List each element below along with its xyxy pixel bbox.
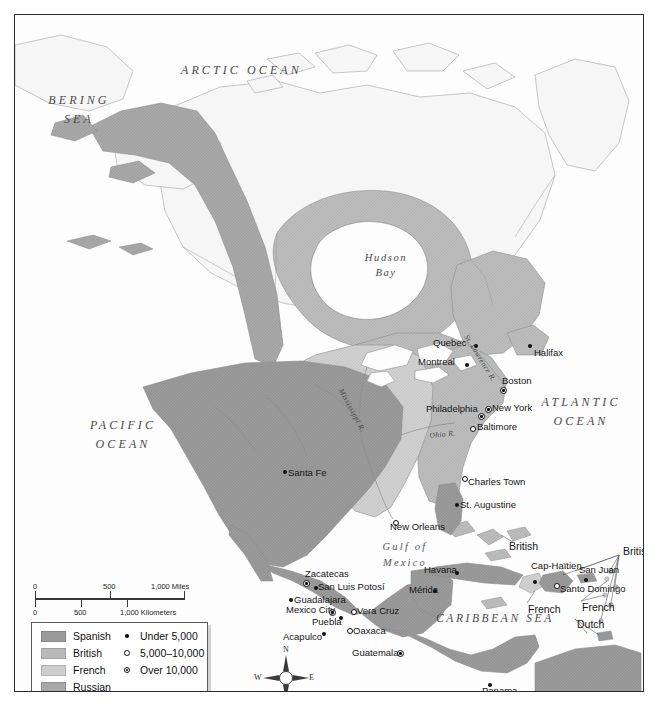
city-marker-mexico-city: [329, 609, 336, 616]
map-figure: ARCTIC OCEAN BERING SEA PACIFIC OCEAN AT…: [0, 0, 658, 706]
legend-swatch-british: [41, 648, 66, 659]
compass-rose: N S E W: [255, 647, 317, 692]
scale-tick-miles-500: [110, 591, 111, 599]
population-large-icon: [120, 667, 134, 674]
city-marker-new-york: [485, 406, 492, 413]
scale-tick-km-0: [35, 599, 36, 607]
legend-swatch-spanish: [41, 631, 66, 642]
city-marker-montreal: [465, 363, 469, 367]
city-marker-merida: [433, 589, 437, 593]
legend-item-french: French: [41, 662, 106, 678]
city-marker-oaxaca: [347, 628, 353, 634]
scale-tick-miles-1000: [184, 591, 185, 599]
scale-label-miles-500: 500: [103, 582, 116, 591]
map-frame: ARCTIC OCEAN BERING SEA PACIFIC OCEAN AT…: [14, 14, 644, 692]
legend-label-over-10000: Over 10,000: [140, 664, 198, 676]
legend-label-spanish: Spanish: [73, 630, 111, 642]
city-marker-santa-fe: [283, 470, 287, 474]
legend-swatch-russian: [41, 682, 66, 693]
city-marker-puebla: [339, 616, 343, 620]
population-medium-icon: [120, 650, 134, 656]
scale-label-miles-0: 0: [33, 582, 37, 591]
city-marker-vera-cruz: [351, 609, 357, 615]
city-marker-new-orleans: [393, 520, 399, 526]
legend-label-russian: Russian: [73, 681, 111, 692]
scale-tick-miles-0: [35, 591, 36, 599]
legend-item-over-10000: Over 10,000: [120, 662, 198, 678]
city-marker-santo-domingo: [554, 583, 560, 589]
legend-item-british: British: [41, 645, 102, 661]
city-marker-san-juan: [584, 578, 588, 582]
city-marker-acapulco: [322, 632, 326, 636]
legend-label-french: French: [73, 664, 106, 676]
city-marker-guatemala: [397, 650, 404, 657]
legend-label-british: British: [73, 647, 102, 659]
scale-bar: 0 500 1,000 Miles 0 500 1,000 Kilometers: [31, 581, 203, 619]
scale-label-km-500: 500: [74, 608, 87, 617]
legend-label-under-5000: Under 5,000: [140, 630, 198, 642]
city-marker-charles-town: [462, 476, 468, 482]
legend-label-5000-10000: 5,000–10,000: [140, 647, 204, 659]
map-legend: Spanish British French Russian Under 5,0…: [31, 622, 208, 692]
legend-item-russian: Russian: [41, 679, 111, 692]
city-marker-zacatecas: [303, 580, 310, 587]
compass-east-label: E: [309, 673, 314, 682]
legend-item-under-5000: Under 5,000: [120, 628, 198, 644]
city-marker-san-luis-potosi: [314, 586, 318, 590]
legend-swatch-french: [41, 665, 66, 676]
legend-item-spanish: Spanish: [41, 628, 111, 644]
compass-west-label: W: [254, 673, 262, 682]
city-marker-baltimore: [470, 426, 476, 432]
compass-north-label: N: [283, 645, 289, 654]
scale-label-miles-1000: 1,000 Miles: [151, 582, 189, 591]
city-marker-st-augustine: [455, 503, 459, 507]
city-marker-havana: [455, 571, 459, 575]
population-small-icon: [120, 634, 134, 638]
city-marker-quebec: [474, 344, 478, 348]
city-marker-panama: [488, 683, 492, 687]
city-marker-guadalajara: [289, 598, 293, 602]
scale-tick-km-1000: [127, 599, 128, 607]
city-marker-cap-haitien: [533, 580, 537, 584]
scale-label-km-0: 0: [33, 608, 37, 617]
scale-tick-km-500: [81, 599, 82, 607]
legend-item-5000-10000: 5,000–10,000: [120, 645, 204, 661]
city-marker-philadelphia: [478, 413, 485, 420]
city-marker-boston: [500, 387, 507, 394]
city-marker-halifax: [528, 344, 532, 348]
scale-label-km-1000: 1,000 Kilometers: [120, 608, 176, 617]
